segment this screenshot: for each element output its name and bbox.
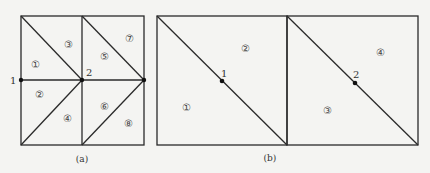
panel-a-element-5: ⑤ bbox=[100, 51, 109, 62]
panel-a: 1 2 ① ② ③ ④ ⑤ ⑥ ⑦ ⑧ (a) bbox=[10, 16, 146, 164]
panel-b-node-2 bbox=[353, 81, 358, 86]
panel-a-caption: (a) bbox=[76, 154, 88, 164]
panel-b-element-2: ② bbox=[241, 43, 250, 54]
panel-a-element-7: ⑦ bbox=[125, 33, 134, 44]
panel-a-diagonal-tl bbox=[21, 16, 82, 80]
panel-a-element-2: ② bbox=[35, 89, 44, 100]
panel-b: 1 2 ① ② ③ ④ (b) bbox=[157, 16, 418, 163]
panel-a-diagonal-br bbox=[82, 80, 144, 145]
panel-a-node-2-label: 2 bbox=[86, 67, 92, 78]
panel-a-element-6: ⑥ bbox=[100, 101, 109, 112]
panel-b-node-1-label: 1 bbox=[221, 68, 227, 79]
panel-a-node-right bbox=[142, 78, 146, 82]
panel-a-element-3: ③ bbox=[64, 39, 73, 50]
panel-a-element-8: ⑧ bbox=[124, 118, 133, 129]
panel-b-caption: (b) bbox=[264, 153, 277, 163]
panel-b-diagonal-right bbox=[287, 16, 418, 145]
panel-b-element-1: ① bbox=[182, 102, 191, 113]
panel-b-element-3: ③ bbox=[323, 105, 332, 116]
panel-b-node-1 bbox=[220, 79, 225, 84]
panel-a-element-4: ④ bbox=[63, 113, 72, 124]
mesh-diagram: 1 2 ① ② ③ ④ ⑤ ⑥ ⑦ ⑧ (a) 1 2 ① ② ③ ④ (b) bbox=[0, 0, 430, 173]
panel-b-element-4: ④ bbox=[376, 47, 385, 58]
panel-a-diagonal-bl bbox=[21, 80, 82, 145]
panel-a-node-2 bbox=[80, 78, 84, 82]
panel-a-element-1: ① bbox=[31, 59, 40, 70]
panel-a-node-1-label: 1 bbox=[10, 75, 16, 86]
panel-a-node-1 bbox=[19, 78, 23, 82]
panel-b-node-2-label: 2 bbox=[353, 69, 359, 80]
